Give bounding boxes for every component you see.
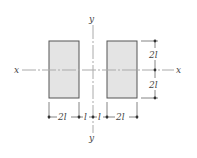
dim-label-vertical-top: 2l xyxy=(148,50,158,60)
y-axis-label-bottom: y xyxy=(88,133,95,143)
x-axis-label-right: x xyxy=(176,65,181,75)
dim-dot xyxy=(154,69,157,72)
dim-label-l-left: l xyxy=(84,112,87,122)
dim-dot xyxy=(154,97,157,100)
x-axis-label-left: x xyxy=(14,65,19,75)
dim-label-vertical-bottom: 2l xyxy=(148,80,158,90)
dim-dot xyxy=(136,116,139,119)
dim-label-2l-right: 2l xyxy=(115,112,125,122)
y-axis-label-top: y xyxy=(88,14,95,24)
dim-dot xyxy=(78,116,81,119)
diagram-svg: 2l 2l 2l l l 2l x x y y xyxy=(0,0,197,158)
dim-label-l-right: l xyxy=(98,112,101,122)
dim-dot xyxy=(154,40,157,43)
dim-dot xyxy=(48,116,51,119)
diagram-canvas: 2l 2l 2l l l 2l x x y y xyxy=(0,0,197,158)
dim-dot xyxy=(92,116,95,119)
dim-dot xyxy=(106,116,109,119)
dim-label-2l-left: 2l xyxy=(57,112,67,122)
